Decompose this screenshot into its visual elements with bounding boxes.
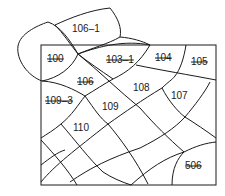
label-109-3: 109–3 (45, 95, 73, 106)
mesh-line-a4 (131, 142, 216, 185)
label-106-1: 106–1 (72, 23, 100, 34)
label-103-1: 103–1 (106, 54, 134, 65)
label-108: 108 (133, 82, 150, 93)
region-100-outline (18, 22, 78, 81)
label-506: 506 (185, 160, 202, 171)
label-105: 105 (191, 56, 208, 67)
label-107: 107 (171, 90, 188, 101)
mesh-diagram: 106–1 100 103–1 104 105 106 108 107 109–… (0, 0, 225, 196)
label-104: 104 (155, 52, 172, 63)
label-106: 106 (77, 76, 94, 87)
label-100: 100 (47, 53, 64, 64)
region-506-outline (172, 152, 184, 185)
divider-104-105-lower (136, 65, 216, 80)
mesh-line-d1 (78, 54, 184, 152)
mesh-line-d4 (41, 140, 77, 185)
divider-104-105 (175, 45, 186, 76)
label-110: 110 (73, 122, 89, 133)
label-109: 109 (102, 101, 119, 112)
